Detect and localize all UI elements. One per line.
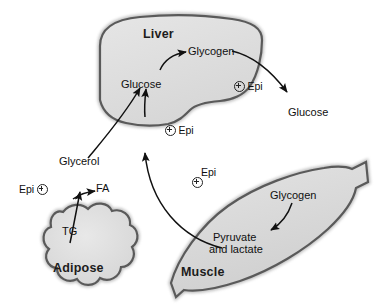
metabolite-label-fa: FA — [96, 183, 109, 195]
metabolite-label-glycerol: Glycerol — [59, 156, 99, 168]
arrow-tg-to-fa — [73, 191, 95, 199]
organ-label-adipose: Adipose — [53, 262, 104, 276]
regulator-epi-liver-glycogenolysis: Epi — [234, 80, 263, 92]
circled-plus-icon — [192, 177, 203, 188]
metabolite-label-blood-glucose: Glucose — [288, 107, 328, 119]
regulator-label: Epi — [179, 124, 194, 136]
arrow-muscle-glycogen-to-pyruvate — [271, 203, 292, 230]
regulator-epi-adipose-lipolysis: Epi — [19, 183, 48, 195]
arrow-gluconeogenesis-into-glucose — [145, 89, 146, 117]
regulator-label: Epi — [201, 166, 216, 178]
regulator-epi-muscle: Epi — [192, 166, 216, 188]
arrow-liver-glucose-to-glycogen — [160, 52, 186, 70]
regulator-epi-liver-gluconeogenesis: Epi — [165, 124, 194, 136]
regulator-label: Epi — [19, 183, 34, 195]
circled-plus-icon — [37, 184, 48, 195]
regulator-label: Epi — [248, 80, 263, 92]
metabolite-label-liver-glycogen: Glycogen — [188, 46, 234, 58]
metabolite-label-tg: TG — [62, 226, 77, 238]
circled-plus-icon — [234, 81, 245, 92]
arrow-glycerol-to-liver-glucose — [88, 88, 140, 158]
metabolite-label-liver-glucose: Glucose — [121, 79, 161, 91]
metabolite-label-lactate: and lactate — [209, 244, 263, 256]
metabolite-label-muscle-glycogen: Glycogen — [270, 190, 316, 202]
metabolism-diagram: Liver Adipose Muscle Glycogen Glucose Gl… — [0, 0, 375, 306]
circled-plus-icon — [165, 125, 176, 136]
organ-label-muscle: Muscle — [181, 266, 225, 280]
organ-label-liver: Liver — [143, 28, 174, 42]
